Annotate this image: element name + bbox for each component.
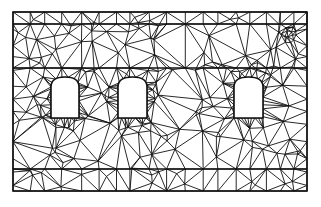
mesh-diagram (0, 0, 321, 207)
window-3-opening (234, 77, 263, 118)
window-2-opening (118, 77, 147, 118)
window-1-opening (51, 77, 79, 118)
mesh-svg (0, 0, 321, 207)
